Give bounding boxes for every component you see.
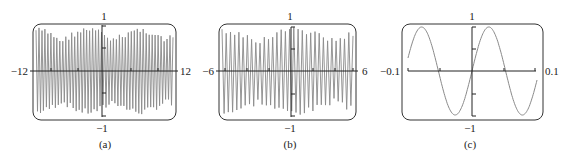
panel-c-ymax-label: 1 [469, 10, 475, 22]
panel-c-xmin-label: −0.1 [380, 65, 400, 77]
panel-b-ymax-label: 1 [287, 10, 293, 22]
panel-b-ymin-label: −1 [284, 122, 296, 134]
panel-c-caption: (c) [464, 138, 477, 151]
panel-b-caption: (b) [284, 138, 297, 151]
panel-a-xmax-label: 12 [180, 65, 191, 77]
panel-b-xmin-label: −6 [202, 65, 214, 77]
panel-c-ymin-label: −1 [464, 122, 476, 134]
figure: 1 −12 12 −1 (a) 1 −6 6 −1 (b) [0, 0, 563, 160]
panel-a-xmin-label: −12 [11, 65, 28, 77]
panel-c: 1 −0.1 0.1 −1 (c) [380, 10, 559, 151]
panel-a-ymin-label: −1 [96, 122, 108, 134]
panel-a-caption: (a) [99, 138, 112, 151]
panel-b: 1 −6 6 −1 (b) [202, 10, 368, 151]
panel-b-xmax-label: 6 [362, 65, 368, 77]
panel-a: 1 −12 12 −1 (a) [11, 10, 191, 151]
panel-a-ymax-label: 1 [101, 10, 107, 22]
panel-c-xmax-label: 0.1 [545, 65, 559, 77]
